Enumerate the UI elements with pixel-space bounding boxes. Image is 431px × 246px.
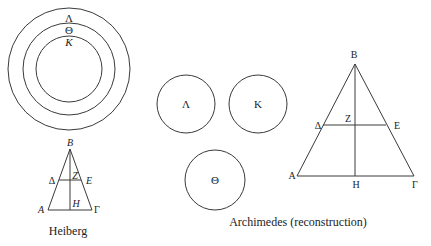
- label-A: A: [37, 204, 45, 215]
- caption-heiberg: Heiberg: [49, 224, 87, 238]
- label-lambda: Λ: [182, 98, 190, 110]
- archimedes-circles: Λ K Θ: [157, 75, 287, 210]
- label-E: E: [85, 175, 92, 186]
- archimedes-triangle: B Δ Z E A H Γ: [288, 49, 418, 190]
- diagram-canvas: Λ Θ K B Δ Z E A H Γ Heiberg Λ K Θ B Δ Z …: [0, 0, 431, 246]
- heiberg-triangle: B Δ Z E A H Γ: [37, 137, 100, 215]
- label-H: H: [352, 179, 359, 190]
- label-H: H: [71, 198, 80, 209]
- label-B: B: [351, 49, 358, 60]
- label-Gamma: Γ: [412, 179, 418, 190]
- label-Gamma: Γ: [94, 204, 100, 215]
- caption-archimedes: Archimedes (reconstruction): [229, 215, 367, 229]
- label-Z: Z: [345, 113, 351, 124]
- label-lambda: Λ: [65, 12, 73, 24]
- label-kappa: K: [254, 98, 262, 110]
- label-Delta: Δ: [315, 120, 322, 131]
- heiberg-concentric-circles: Λ Θ K: [8, 8, 130, 130]
- label-A: A: [288, 170, 296, 181]
- label-B: B: [67, 137, 73, 148]
- label-theta: Θ: [65, 24, 73, 36]
- label-theta: Θ: [211, 174, 219, 186]
- label-Delta: Δ: [49, 175, 56, 186]
- label-E: E: [394, 120, 400, 131]
- label-kappa: K: [64, 36, 73, 48]
- label-Z: Z: [72, 170, 78, 181]
